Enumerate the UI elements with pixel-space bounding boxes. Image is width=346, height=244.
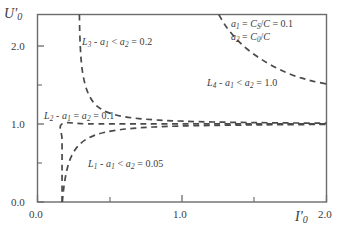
x-tick-label-1: 1.0 bbox=[173, 208, 187, 220]
x-tick-label-2: 2.0 bbox=[318, 208, 332, 220]
x-axis-title: I′0 bbox=[295, 209, 308, 225]
y-axis-title-sub: 0 bbox=[17, 11, 22, 22]
y-tick-label-1: 1.0 bbox=[11, 118, 25, 130]
curve-label-L4: L4 - a1 < a2 = 1.0 bbox=[207, 77, 277, 90]
y-axis-title: U′0 bbox=[4, 6, 22, 22]
x-tick-label-0: 0.0 bbox=[29, 208, 43, 220]
y-axis-title-main: U bbox=[4, 6, 14, 21]
y-tick-label-2: 2.0 bbox=[11, 40, 25, 52]
plot-frame bbox=[38, 15, 327, 203]
legend-a1-definition: a1 = CS/C = 0.1 bbox=[231, 18, 293, 31]
figure-container: U′0 I′0 0.0 1.0 2.0 0.0 1.0 2.0 L3 - a1 … bbox=[0, 0, 346, 244]
curve-label-L1: L1 - a1 < a2 = 0.05 bbox=[88, 158, 163, 171]
y-tick-label-0: 0.0 bbox=[11, 196, 25, 208]
curve-L3 bbox=[79, 15, 326, 124]
x-axis-title-sub: 0 bbox=[303, 214, 308, 225]
curve-label-L3: L3 - a1 < a2 = 0.2 bbox=[82, 36, 152, 49]
legend-a2-definition: a2 = C0/C bbox=[231, 31, 270, 44]
y-axis-major-ticks bbox=[38, 46, 45, 202]
x-axis-major-ticks bbox=[38, 195, 327, 202]
curve-label-L2: L2 - a1 = a2 = 0.1 bbox=[44, 110, 114, 123]
